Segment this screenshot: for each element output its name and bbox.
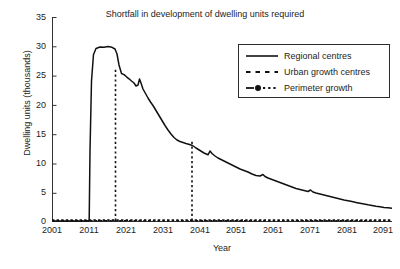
x-tick-label: 2011: [69, 226, 109, 235]
x-axis-title: Year: [52, 243, 392, 253]
x-tick-label: 2021: [106, 226, 146, 235]
x-tick-label: 2081: [327, 226, 367, 235]
dashed-line-key: [245, 65, 279, 79]
dash-dot-marker-key: [245, 81, 279, 95]
legend-item-urban-growth-centres[interactable]: Urban growth centres: [239, 64, 389, 80]
y-tick-label: 15: [36, 130, 46, 139]
legend-label: Perimeter growth: [284, 83, 353, 93]
y-axis-ticks: [53, 18, 57, 223]
x-tick-label: 2061: [253, 226, 293, 235]
x-tick-label: 2041: [180, 226, 220, 235]
y-tick-label: 35: [36, 13, 46, 22]
x-tick-label: 2071: [290, 226, 330, 235]
y-tick-label: 5: [41, 188, 46, 197]
y-axis-tick-labels: 35 30 25 20 15 10 5 0: [0, 0, 50, 240]
x-tick-label: 2001: [32, 226, 72, 235]
chart-container: Shortfall in development of dwelling uni…: [0, 0, 400, 269]
x-tick-label: 2091: [363, 226, 400, 235]
y-tick-label: 25: [36, 71, 46, 80]
x-tick-label: 2031: [143, 226, 183, 235]
legend-label: Urban growth centres: [284, 67, 370, 77]
y-tick-label: 20: [36, 101, 46, 110]
legend-item-regional-centres[interactable]: Regional centres: [239, 48, 389, 64]
legend-label: Regional centres: [284, 51, 352, 61]
y-tick-label: 30: [36, 42, 46, 51]
solid-line-key: [245, 49, 279, 63]
x-tick-label: 2051: [216, 226, 256, 235]
x-axis-tick-labels: 2001 2011 2021 2031 2041 2051 2061 2071 …: [0, 226, 400, 240]
legend-item-perimeter-growth[interactable]: Perimeter growth: [239, 80, 389, 96]
chart-legend: Regional centres Urban growth centres Pe…: [238, 44, 390, 98]
y-tick-label: 10: [36, 159, 46, 168]
